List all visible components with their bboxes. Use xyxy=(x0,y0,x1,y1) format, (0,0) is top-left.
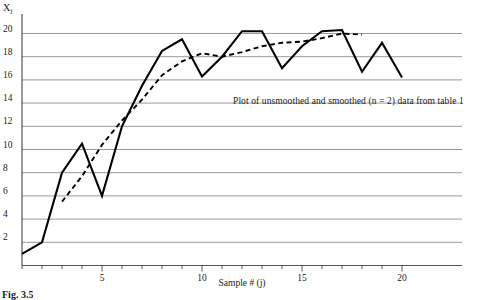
figure-container: Xj 2468101214161820 5101520 Sample # (j)… xyxy=(0,0,484,300)
chart-plot-area xyxy=(0,0,484,300)
gridlines-group xyxy=(22,34,462,243)
y-tick-label: 14 xyxy=(3,93,13,103)
y-tick-label: 12 xyxy=(3,116,13,126)
y-axis-label: Xj xyxy=(3,2,13,15)
y-tick-label: 6 xyxy=(3,186,8,196)
figure-caption: Fig. 3.5 xyxy=(2,289,33,300)
series-line-unsmoothed xyxy=(22,30,402,254)
chart-annotation: Plot of unsmoothed and smoothed (n = 2) … xyxy=(233,96,464,106)
y-tick-label: 20 xyxy=(3,24,13,34)
y-tick-label: 4 xyxy=(3,209,8,219)
y-tick-label: 16 xyxy=(3,70,13,80)
y-axis-label-subscript: j xyxy=(10,7,12,15)
x-tick-marks-group xyxy=(22,266,402,272)
y-tick-label: 10 xyxy=(3,140,13,150)
y-tick-label: 2 xyxy=(3,232,8,242)
y-tick-label: 8 xyxy=(3,163,8,173)
x-axis-title: Sample # (j) xyxy=(0,278,484,288)
y-tick-label: 18 xyxy=(3,47,13,57)
